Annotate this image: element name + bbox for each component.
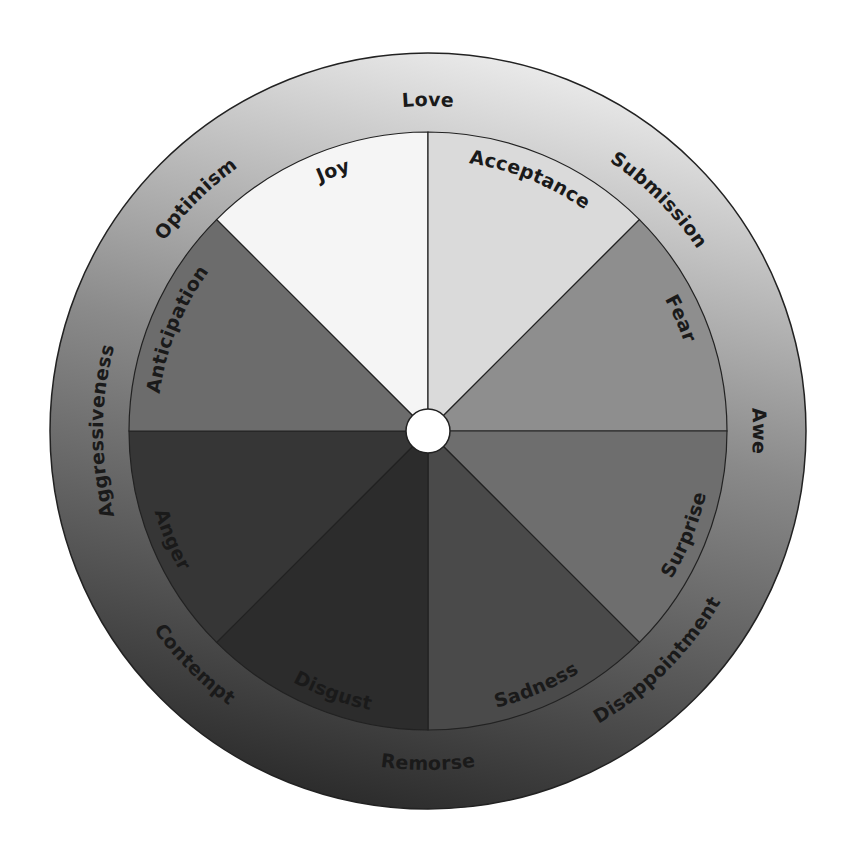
label-awe: Awe xyxy=(748,407,771,455)
label-remorse: Remorse xyxy=(380,749,477,774)
center-hub xyxy=(406,409,450,453)
hub xyxy=(406,409,450,453)
emotion-wheel: JoyAcceptanceFearSurpriseSadnessDisgustA… xyxy=(0,0,860,856)
